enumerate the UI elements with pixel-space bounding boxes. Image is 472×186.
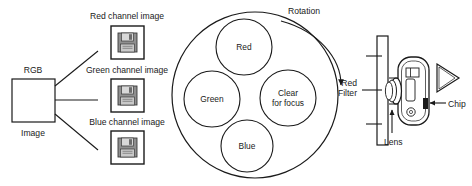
filter-clear-label-line2: for focus bbox=[272, 98, 304, 108]
blue-channel-label: Blue channel image bbox=[89, 117, 165, 127]
red-filter-label-line1: Red bbox=[341, 78, 357, 88]
rgb-image-box bbox=[12, 79, 55, 122]
camera-assembly-group: Red Filter Lens Chip bbox=[338, 36, 466, 147]
rgb-box-title: RGB bbox=[24, 65, 43, 75]
green-channel-group: Green channel image bbox=[86, 65, 168, 112]
ccd-chip bbox=[423, 98, 428, 109]
rgb-box-caption: Image bbox=[21, 128, 45, 138]
camera-side-panel bbox=[406, 79, 415, 101]
green-channel-label: Green channel image bbox=[86, 65, 168, 75]
floppy-disk-icon bbox=[118, 33, 137, 52]
filter-wheel-group: Red Green Clear for focus Blue bbox=[172, 12, 338, 178]
red-filter-label-line2: Filter bbox=[338, 88, 357, 98]
camera-top-control bbox=[406, 68, 419, 77]
filter-blue-label: Blue bbox=[239, 141, 256, 151]
filter-red-label: Red bbox=[236, 42, 252, 52]
chip-label: Chip bbox=[448, 99, 466, 109]
diagram-canvas: RGB Image Red channel image Green channe… bbox=[0, 0, 472, 186]
filter-green-label: Green bbox=[200, 94, 224, 104]
camera-dial bbox=[407, 108, 415, 116]
filter-clear-label-line1: Clear bbox=[278, 88, 298, 98]
red-channel-label: Red channel image bbox=[90, 11, 164, 21]
viewfinder-cone bbox=[437, 64, 459, 92]
red-channel-group: Red channel image bbox=[90, 11, 164, 59]
lens-label: Lens bbox=[384, 137, 403, 147]
blue-channel-group: Blue channel image bbox=[89, 117, 165, 164]
rgb-source-group: RGB Image bbox=[12, 65, 55, 138]
rotation-label: Rotation bbox=[288, 6, 320, 16]
floppy-disk-icon bbox=[118, 138, 137, 157]
floppy-disk-icon bbox=[118, 86, 137, 105]
diagram-svg: RGB Image Red channel image Green channe… bbox=[0, 0, 472, 186]
